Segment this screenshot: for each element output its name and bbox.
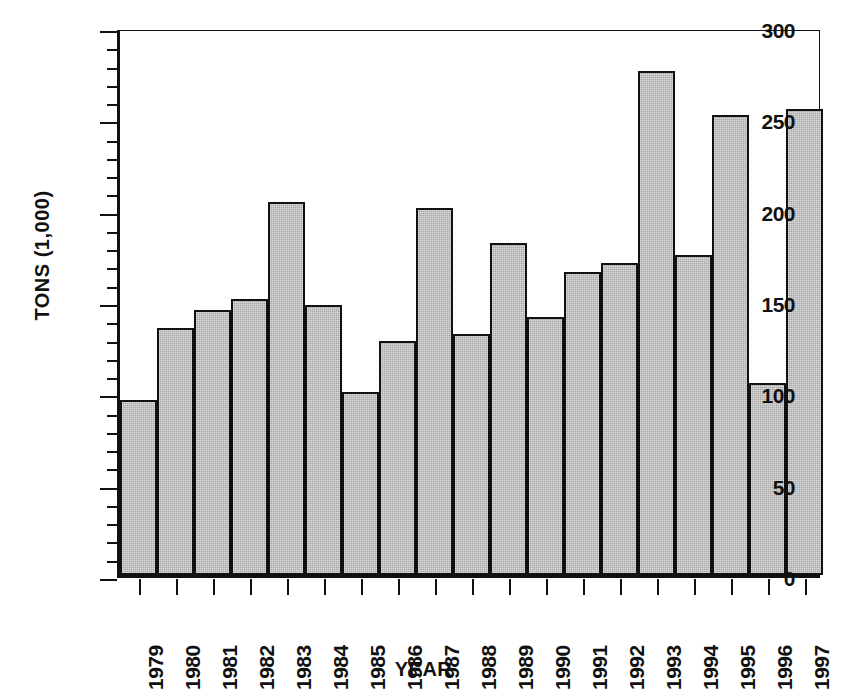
x-axis-tick-labels: 1979198019811982198319841985198619871988… xyxy=(0,0,847,696)
bar-chart: TONS (1,000) 050100150200250300 19791980… xyxy=(0,0,847,696)
x-axis-title: YEAR xyxy=(0,658,847,681)
